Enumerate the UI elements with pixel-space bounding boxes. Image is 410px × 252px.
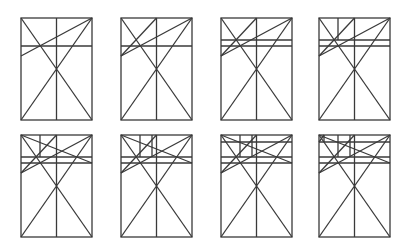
panel-step-4 [319, 18, 390, 120]
panel-step-2 [121, 18, 192, 120]
panel-step-1 [21, 18, 92, 120]
panel-step-7 [221, 135, 292, 237]
grid-construction-diagram [0, 0, 410, 252]
panel-step-5 [21, 135, 92, 237]
panel-step-8 [319, 135, 390, 237]
panel-step-6 [121, 135, 192, 237]
panel-step-3 [221, 18, 292, 120]
